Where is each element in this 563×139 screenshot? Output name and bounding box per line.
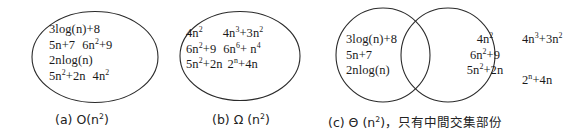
- panel-c-theta: 3log(n)+8 5n+7 2nlog(n) 4n2 6n2+9 5n2+2n…: [308, 0, 531, 139]
- caption-tail: ): [104, 112, 109, 127]
- panel-a-terms: 3log(n)+8 5n+76n2+9 2nlog(n) 5n2+2n4n2: [49, 22, 112, 84]
- term-row: 3log(n)+8: [49, 22, 112, 38]
- term-row: 6n2+96n6+ n4: [186, 42, 263, 58]
- exponent: 2: [489, 31, 493, 40]
- term: 5n2+2n: [467, 63, 504, 77]
- term: 6n6+ n4: [223, 42, 261, 56]
- caption-a: (a) O(n2): [55, 112, 109, 127]
- term-row: 4n2: [454, 27, 516, 43]
- panel-a-big-o: 3log(n)+8 5n+76n2+9 2nlog(n) 5n2+2n4n2 (…: [0, 0, 186, 139]
- panel-c-right-terms: 4n3+3n2 2n+4n: [522, 27, 563, 83]
- exponent: 2: [105, 67, 109, 76]
- term: 2nlog(n): [346, 63, 390, 77]
- term-row: 2n+4n: [522, 68, 563, 84]
- panel-b-omega: 4n24n3+3n2 6n2+96n6+ n4 5n2+2n2n+4n (b) …: [172, 0, 322, 139]
- term: 5n2+2n: [49, 69, 86, 83]
- caption-tail: )，只有中間交集部份: [380, 115, 502, 130]
- term: 3log(n)+8: [49, 22, 100, 36]
- term-row: 5n2+2n2n+4n: [186, 57, 263, 73]
- term-row: 2nlog(n): [49, 53, 112, 69]
- term: 2n+4n: [522, 73, 552, 87]
- exponent: 4: [257, 40, 261, 49]
- term-row: 5n2+2n4n2: [49, 69, 112, 85]
- term-row: 5n2+2n: [454, 58, 516, 74]
- term: 4n2: [93, 69, 110, 83]
- panel-c-intersection-terms: 4n2 6n2+9 5n2+2n: [454, 27, 516, 74]
- term-row: 2nlog(n): [346, 58, 397, 74]
- term: 6n2+9: [186, 42, 216, 56]
- caption-label: (c) Θ (n: [328, 115, 375, 130]
- term-row: 6n2+9: [454, 43, 516, 59]
- exponent: 2: [259, 25, 263, 34]
- term-row-spacer: [522, 43, 563, 68]
- term-row: 3log(n)+8: [346, 27, 397, 43]
- panel-b-terms: 4n24n3+3n2 6n2+96n6+ n4 5n2+2n2n+4n: [186, 26, 263, 73]
- caption-tail: ): [265, 112, 270, 127]
- term: 6n2+9: [82, 38, 112, 52]
- exponent: 2: [559, 31, 563, 40]
- term: 4n3+3n2: [223, 26, 264, 40]
- term-row: 5n+76n2+9: [49, 38, 112, 54]
- term: 5n2+2n: [186, 57, 223, 71]
- panel-c-left-terms: 3log(n)+8 5n+7 2nlog(n): [346, 27, 397, 74]
- caption-label: (a) O(n: [55, 112, 99, 127]
- caption-b: (b) Ω (n2): [212, 112, 270, 127]
- term: 5n+7: [49, 38, 75, 52]
- exponent: 2: [199, 25, 203, 34]
- caption-c: (c) Θ (n2)，只有中間交集部份: [328, 112, 502, 131]
- term: 4n2: [186, 26, 203, 40]
- term-row: 4n3+3n2: [522, 27, 563, 43]
- term: 2nlog(n): [49, 53, 93, 67]
- term-row: 4n24n3+3n2: [186, 26, 263, 42]
- caption-label: (b) Ω (n: [212, 112, 260, 127]
- term: 4n3+3n2: [522, 32, 563, 46]
- term: 2n+4n: [228, 57, 258, 71]
